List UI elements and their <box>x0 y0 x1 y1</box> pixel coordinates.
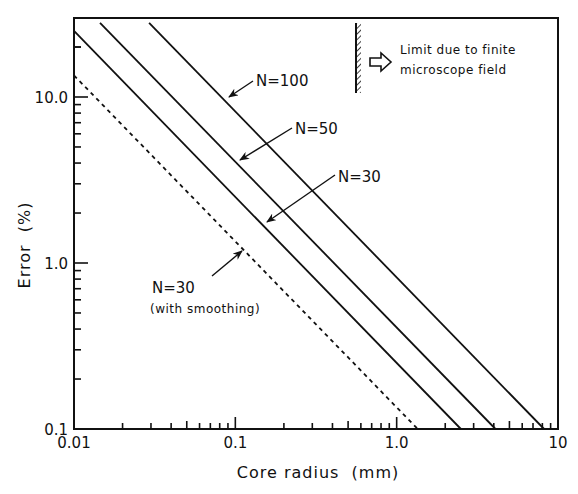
label-n100: N=100 <box>256 72 308 90</box>
series-lines <box>74 23 544 429</box>
x-axis-title: Core radius (mm) <box>237 463 399 482</box>
label-n50: N=50 <box>295 120 338 138</box>
y-tick-label: 1.0 <box>44 255 68 273</box>
tick-labels: 0.010.11.0100.11.010.0 <box>35 89 568 452</box>
limit-text-line1: Limit due to finite <box>400 43 516 57</box>
series-line-n-30-with-smoothing <box>74 75 418 429</box>
x-tick-label: 1.0 <box>385 434 409 452</box>
label-n30: N=30 <box>338 168 381 186</box>
y-tick-label: 10.0 <box>35 89 68 107</box>
arrow-n30-smoothing <box>212 251 242 276</box>
arrow-n100 <box>229 81 253 97</box>
annotation-n30-smoothing: N=30 (with smoothing) <box>150 251 260 316</box>
limit-annotation: Limit due to finite microscope field <box>356 23 516 93</box>
x-tick-label: 10 <box>548 434 567 452</box>
arrow-n50 <box>240 128 292 160</box>
y-axis-title: Error (%) <box>15 202 34 289</box>
series-line-n-30 <box>74 31 461 429</box>
annotation-n100: N=100 <box>229 72 308 97</box>
limit-text-line2: microscope field <box>400 63 507 77</box>
y-tick-label: 0.1 <box>44 421 68 439</box>
label-n30-smoothing: N=30 <box>152 279 195 297</box>
hollow-arrow-right-icon <box>370 53 391 71</box>
annotation-n50: N=50 <box>240 120 338 160</box>
series-line-n-100 <box>149 23 544 429</box>
arrow-n30 <box>267 175 335 222</box>
chart: 0.010.11.0100.11.010.0 Core radius (mm) … <box>0 0 578 494</box>
annotation-n30: N=30 <box>267 168 381 222</box>
label-n30-smoothing-sub: (with smoothing) <box>150 302 260 316</box>
x-tick-label: 0.1 <box>223 434 247 452</box>
